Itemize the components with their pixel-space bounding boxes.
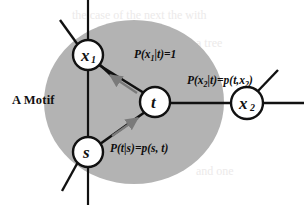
node-x2-subscript: 2 <box>249 102 255 113</box>
label-s-t: P(t|s)=p(s, t) <box>110 142 168 155</box>
node-x2-label: x <box>238 94 248 113</box>
node-s[interactable]: s <box>73 137 103 167</box>
svg-text:P(t|s)=p(s, t): P(t|s)=p(s, t) <box>110 142 168 155</box>
motif-caption: A Motif <box>12 93 55 107</box>
node-x1-label: x <box>80 46 90 65</box>
node-x2[interactable]: x 2 <box>231 87 263 119</box>
node-x1-subscript: 1 <box>91 54 96 65</box>
stub-s-downleft <box>62 162 78 191</box>
diagram-canvas: the case of the next the with a tree and… <box>0 0 304 205</box>
node-s-label: s <box>82 143 90 162</box>
node-x1[interactable]: x 1 <box>73 40 103 70</box>
stub-x1-upleft <box>60 20 78 45</box>
motif-diagram-svg: x 1 t s x 2 P(x1|t)=1 P(x2|t)=p(t,x2) <box>0 0 304 205</box>
node-t[interactable]: t <box>140 87 170 117</box>
